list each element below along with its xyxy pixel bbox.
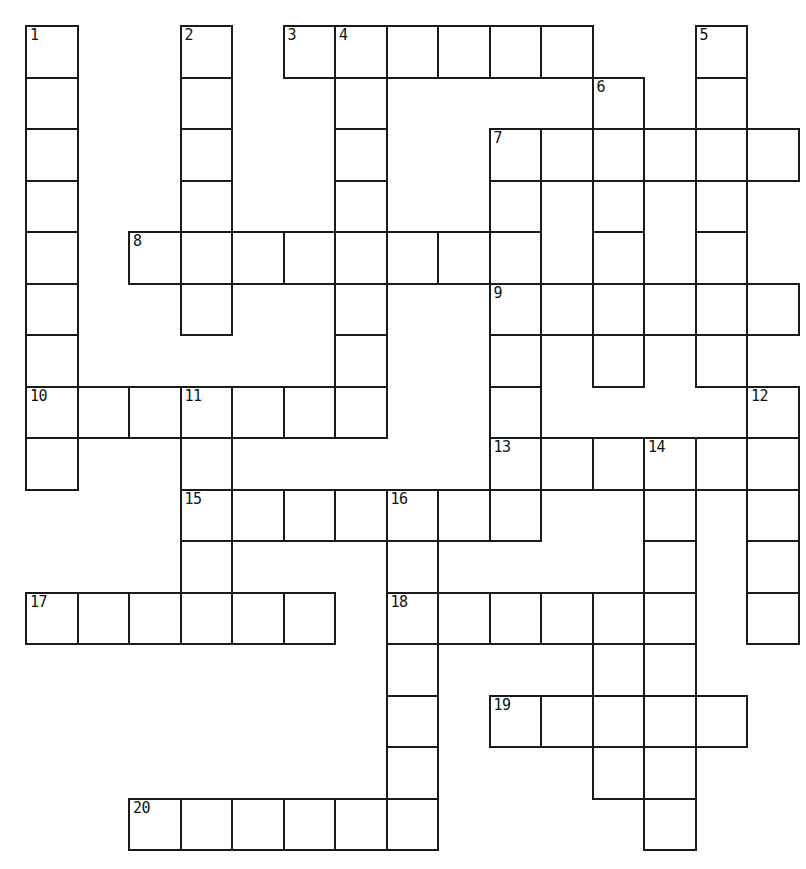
crossword-cell[interactable] bbox=[180, 180, 234, 234]
crossword-cell[interactable] bbox=[386, 643, 440, 697]
crossword-cell[interactable] bbox=[643, 283, 697, 337]
crossword-cell[interactable] bbox=[25, 334, 79, 388]
crossword-cell[interactable] bbox=[592, 283, 646, 337]
crossword-cell[interactable] bbox=[283, 231, 337, 285]
crossword-cell[interactable] bbox=[334, 231, 388, 285]
crossword-cell[interactable] bbox=[695, 283, 749, 337]
crossword-cell[interactable] bbox=[746, 540, 800, 594]
crossword-cell[interactable]: 18 bbox=[386, 592, 440, 646]
crossword-cell[interactable] bbox=[746, 283, 800, 337]
crossword-cell[interactable] bbox=[746, 489, 800, 543]
crossword-cell[interactable] bbox=[437, 489, 491, 543]
crossword-cell[interactable] bbox=[283, 798, 337, 852]
crossword-cell[interactable]: 13 bbox=[489, 437, 543, 491]
crossword-cell[interactable] bbox=[283, 386, 337, 440]
crossword-cell[interactable] bbox=[334, 334, 388, 388]
crossword-cell[interactable]: 7 bbox=[489, 128, 543, 182]
crossword-cell[interactable] bbox=[231, 798, 285, 852]
crossword-cell[interactable] bbox=[592, 231, 646, 285]
crossword-cell[interactable] bbox=[695, 180, 749, 234]
crossword-cell[interactable] bbox=[180, 77, 234, 131]
crossword-cell[interactable] bbox=[695, 231, 749, 285]
crossword-cell[interactable] bbox=[540, 283, 594, 337]
crossword-cell[interactable]: 19 bbox=[489, 695, 543, 749]
crossword-cell[interactable] bbox=[592, 334, 646, 388]
crossword-cell[interactable] bbox=[180, 128, 234, 182]
crossword-cell[interactable] bbox=[540, 592, 594, 646]
crossword-cell[interactable] bbox=[180, 231, 234, 285]
crossword-cell[interactable] bbox=[540, 25, 594, 79]
crossword-cell[interactable] bbox=[643, 798, 697, 852]
crossword-cell[interactable] bbox=[128, 386, 182, 440]
crossword-cell[interactable] bbox=[334, 283, 388, 337]
crossword-cell[interactable] bbox=[180, 437, 234, 491]
crossword-cell[interactable] bbox=[489, 592, 543, 646]
crossword-cell[interactable] bbox=[386, 540, 440, 594]
crossword-cell[interactable] bbox=[231, 386, 285, 440]
crossword-cell[interactable]: 14 bbox=[643, 437, 697, 491]
crossword-cell[interactable] bbox=[695, 437, 749, 491]
crossword-cell[interactable]: 12 bbox=[746, 386, 800, 440]
crossword-cell[interactable]: 6 bbox=[592, 77, 646, 131]
crossword-cell[interactable]: 17 bbox=[25, 592, 79, 646]
crossword-cell[interactable]: 3 bbox=[283, 25, 337, 79]
crossword-cell[interactable]: 20 bbox=[128, 798, 182, 852]
crossword-cell[interactable] bbox=[25, 77, 79, 131]
crossword-cell[interactable] bbox=[695, 128, 749, 182]
crossword-cell[interactable]: 10 bbox=[25, 386, 79, 440]
crossword-cell[interactable] bbox=[283, 489, 337, 543]
crossword-cell[interactable] bbox=[695, 695, 749, 749]
crossword-cell[interactable] bbox=[489, 386, 543, 440]
crossword-cell[interactable] bbox=[592, 695, 646, 749]
crossword-cell[interactable] bbox=[643, 746, 697, 800]
crossword-cell[interactable] bbox=[386, 798, 440, 852]
crossword-cell[interactable] bbox=[592, 180, 646, 234]
crossword-cell[interactable] bbox=[540, 695, 594, 749]
crossword-cell[interactable] bbox=[386, 25, 440, 79]
crossword-cell[interactable] bbox=[386, 231, 440, 285]
crossword-cell[interactable]: 16 bbox=[386, 489, 440, 543]
crossword-cell[interactable] bbox=[592, 592, 646, 646]
crossword-cell[interactable]: 4 bbox=[334, 25, 388, 79]
crossword-cell[interactable] bbox=[180, 283, 234, 337]
crossword-cell[interactable] bbox=[25, 180, 79, 234]
crossword-cell[interactable] bbox=[489, 231, 543, 285]
crossword-cell[interactable]: 9 bbox=[489, 283, 543, 337]
crossword-cell[interactable] bbox=[592, 437, 646, 491]
crossword-cell[interactable] bbox=[25, 283, 79, 337]
crossword-cell[interactable] bbox=[231, 231, 285, 285]
crossword-cell[interactable] bbox=[128, 592, 182, 646]
crossword-cell[interactable] bbox=[746, 128, 800, 182]
crossword-cell[interactable] bbox=[489, 334, 543, 388]
crossword-cell[interactable] bbox=[643, 540, 697, 594]
crossword-cell[interactable] bbox=[77, 386, 131, 440]
crossword-cell[interactable]: 8 bbox=[128, 231, 182, 285]
crossword-cell[interactable] bbox=[334, 489, 388, 543]
crossword-cell[interactable] bbox=[643, 592, 697, 646]
crossword-cell[interactable]: 1 bbox=[25, 25, 79, 79]
crossword-cell[interactable] bbox=[231, 592, 285, 646]
crossword-cell[interactable] bbox=[437, 25, 491, 79]
crossword-cell[interactable] bbox=[592, 128, 646, 182]
crossword-cell[interactable] bbox=[334, 798, 388, 852]
crossword-cell[interactable] bbox=[77, 592, 131, 646]
crossword-cell[interactable] bbox=[386, 695, 440, 749]
crossword-cell[interactable] bbox=[695, 334, 749, 388]
crossword-cell[interactable] bbox=[746, 592, 800, 646]
crossword-cell[interactable] bbox=[489, 180, 543, 234]
crossword-cell[interactable]: 2 bbox=[180, 25, 234, 79]
crossword-cell[interactable] bbox=[334, 386, 388, 440]
crossword-cell[interactable] bbox=[334, 77, 388, 131]
crossword-cell[interactable] bbox=[180, 540, 234, 594]
crossword-cell[interactable] bbox=[283, 592, 337, 646]
crossword-cell[interactable] bbox=[25, 231, 79, 285]
crossword-cell[interactable] bbox=[592, 643, 646, 697]
crossword-cell[interactable] bbox=[643, 489, 697, 543]
crossword-cell[interactable] bbox=[592, 746, 646, 800]
crossword-cell[interactable] bbox=[437, 592, 491, 646]
crossword-cell[interactable]: 15 bbox=[180, 489, 234, 543]
crossword-cell[interactable] bbox=[746, 437, 800, 491]
crossword-cell[interactable] bbox=[489, 25, 543, 79]
crossword-cell[interactable] bbox=[25, 437, 79, 491]
crossword-cell[interactable] bbox=[437, 231, 491, 285]
